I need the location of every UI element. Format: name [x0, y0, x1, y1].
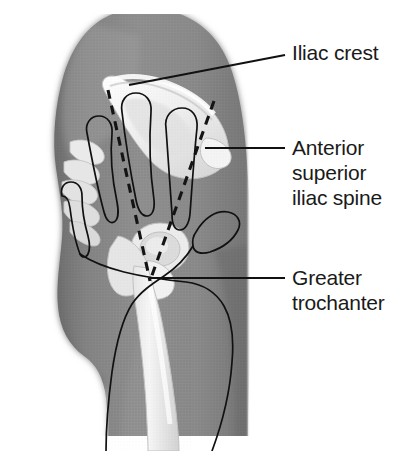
label-asis-line-2: superior — [292, 161, 366, 184]
label-asis-line-1: Anterior — [292, 136, 364, 159]
anatomy-illustration-canvas: Iliac crest Anterior superior iliac spin… — [0, 0, 413, 451]
labels-group: Iliac crest Anterior superior iliac spin… — [292, 41, 385, 314]
label-iliac-crest-line-1: Iliac crest — [292, 41, 379, 64]
anatomy-figure: Iliac crest Anterior superior iliac spin… — [0, 0, 413, 451]
label-greater-trochanter: Greater trochanter — [292, 266, 385, 314]
label-asis-line-3: iliac spine — [292, 186, 382, 209]
label-greater-trochanter-line-2: trochanter — [292, 291, 385, 314]
label-greater-trochanter-line-1: Greater — [292, 266, 362, 289]
label-anterior-superior-iliac-spine: Anterior superior iliac spine — [292, 136, 382, 209]
body-silhouette — [0, 0, 413, 451]
label-iliac-crest: Iliac crest — [292, 41, 379, 64]
